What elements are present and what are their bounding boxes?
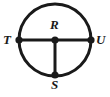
point-marker-u bbox=[87, 36, 94, 43]
point-label-r: R bbox=[50, 18, 59, 31]
point-label-s: S bbox=[51, 78, 58, 91]
point-label-u: U bbox=[96, 33, 105, 46]
point-marker-t bbox=[15, 36, 22, 43]
point-marker-r bbox=[51, 36, 58, 43]
geometry-figure: T U R S bbox=[0, 0, 110, 97]
point-label-t: T bbox=[3, 33, 11, 46]
